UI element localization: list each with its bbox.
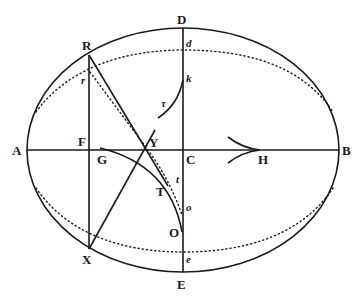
label-G: G xyxy=(97,152,107,167)
label-e: e xyxy=(186,253,191,265)
label-r: r xyxy=(81,74,86,86)
geometric-diagram: A B C D E F G H R X Y T O r d k τ t o e xyxy=(0,0,360,300)
label-tau: τ xyxy=(161,97,167,109)
label-t: t xyxy=(176,173,180,185)
label-d: d xyxy=(186,37,192,49)
label-o: o xyxy=(186,201,192,213)
label-E: E xyxy=(177,277,186,292)
label-A: A xyxy=(12,143,22,158)
label-H: H xyxy=(258,152,268,167)
line-XY xyxy=(89,130,155,249)
label-R: R xyxy=(82,38,92,53)
label-C: C xyxy=(186,152,195,167)
label-D: D xyxy=(177,12,186,27)
label-k: k xyxy=(186,72,192,84)
label-O: O xyxy=(169,225,179,240)
label-X: X xyxy=(82,252,92,267)
curve-GTO xyxy=(100,148,182,232)
label-T: T xyxy=(156,184,165,199)
label-Y: Y xyxy=(149,135,159,150)
label-B: B xyxy=(342,143,351,158)
label-F: F xyxy=(78,134,86,149)
